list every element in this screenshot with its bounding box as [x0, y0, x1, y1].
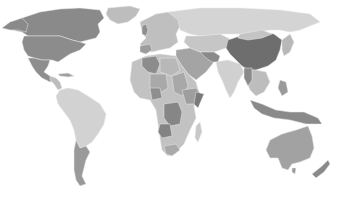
- region-greenland: [106, 6, 140, 24]
- region-alaska: [2, 18, 28, 32]
- region-tasmania: [292, 168, 296, 174]
- region-new-zealand: [312, 160, 330, 178]
- region-russia: [168, 8, 320, 36]
- region-madagascar: [195, 122, 202, 142]
- region-nigeria: [150, 88, 162, 100]
- world-map-svg: [0, 0, 360, 201]
- region-somalia: [194, 92, 204, 108]
- region-japan: [282, 34, 294, 56]
- region-australia: [266, 126, 314, 170]
- region-central-america: [50, 76, 62, 90]
- region-india: [216, 60, 244, 98]
- world-map: [0, 0, 360, 201]
- region-indonesia: [250, 100, 322, 124]
- region-philippines: [278, 80, 288, 96]
- region-iberia: [140, 44, 152, 54]
- region-south-america: [56, 88, 106, 148]
- region-caribbean: [58, 73, 74, 77]
